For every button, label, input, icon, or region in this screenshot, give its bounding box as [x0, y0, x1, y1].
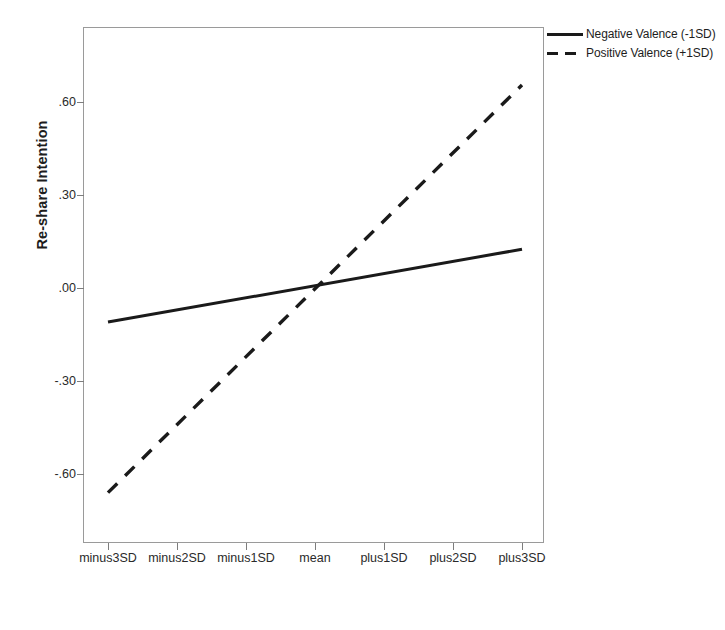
x-tick-mark: [246, 543, 247, 550]
plot-area: [83, 27, 544, 543]
dashed-line-swatch-icon: [547, 47, 583, 59]
y-tick-label: .60: [20, 95, 76, 109]
legend: Negative Valence (-1SD) Positive Valence…: [547, 24, 723, 62]
x-tick-mark: [108, 543, 109, 550]
chart-container: Re-share Intention .60.30.00-.30-.60 min…: [0, 0, 725, 630]
y-tick-label: -.60: [20, 467, 76, 481]
solid-line-swatch-icon: [547, 28, 583, 40]
y-tick-mark: [77, 474, 84, 475]
y-tick-label: .30: [20, 188, 76, 202]
x-tick-mark: [453, 543, 454, 550]
x-tick-mark: [384, 543, 385, 550]
y-tick-mark: [77, 381, 84, 382]
y-tick-mark: [77, 195, 84, 196]
legend-label-negative-valence: Negative Valence (-1SD): [586, 27, 716, 41]
legend-item-positive-valence: Positive Valence (+1SD): [547, 43, 723, 62]
x-tick-mark: [315, 543, 316, 550]
y-tick-label: -.30: [20, 374, 76, 388]
x-tick-label: plus3SD: [474, 551, 570, 565]
y-tick-mark: [77, 102, 84, 103]
legend-label-positive-valence: Positive Valence (+1SD): [586, 46, 713, 60]
x-tick-mark: [522, 543, 523, 550]
legend-item-negative-valence: Negative Valence (-1SD): [547, 24, 723, 43]
x-tick-mark: [177, 543, 178, 550]
y-tick-label: .00: [20, 281, 76, 295]
y-tick-mark: [77, 288, 84, 289]
